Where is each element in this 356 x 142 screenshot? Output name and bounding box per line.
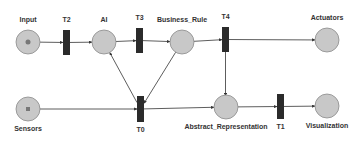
place-label-input: Input bbox=[19, 16, 37, 24]
place-ai bbox=[92, 30, 116, 54]
arc-t0-abstract-representation bbox=[144, 107, 214, 109]
place-label-sensors: Sensors bbox=[14, 125, 42, 132]
transition-t1 bbox=[277, 94, 284, 119]
place-actuators bbox=[315, 28, 339, 52]
place-circle bbox=[315, 28, 339, 52]
transition-label-t0: T0 bbox=[136, 126, 144, 133]
place-circle bbox=[170, 30, 194, 54]
place-label-abstract-representation: Abstract_Representation bbox=[184, 123, 267, 131]
petri-net-diagram: InputAIBusiness_RuleActuatorsSensorsAbst… bbox=[0, 0, 356, 142]
place-circle bbox=[214, 95, 238, 119]
place-label-ai: AI bbox=[101, 16, 108, 23]
place-sensors bbox=[16, 97, 40, 121]
transition-t3 bbox=[136, 28, 143, 53]
place-visualization bbox=[315, 94, 339, 118]
transition-t4 bbox=[222, 27, 229, 52]
place-abstract-representation bbox=[214, 95, 238, 119]
transition-t0 bbox=[137, 96, 144, 122]
place-business-rule bbox=[170, 30, 194, 54]
place-circle bbox=[92, 30, 116, 54]
transition-label-t1: T1 bbox=[276, 123, 284, 130]
place-label-visualization: Visualization bbox=[306, 122, 349, 129]
arc-business-rule-t0 bbox=[144, 52, 176, 103]
arc-t0-ai bbox=[110, 53, 137, 103]
transition-t2 bbox=[63, 30, 70, 55]
transition-label-t3: T3 bbox=[135, 14, 143, 21]
place-label-business-rule: Business_Rule bbox=[157, 16, 207, 23]
place-circle bbox=[315, 94, 339, 118]
arc-t3-business-rule bbox=[143, 41, 170, 42]
place-label-actuators: Actuators bbox=[311, 14, 344, 21]
transition-label-t4: T4 bbox=[221, 13, 229, 20]
token-icon bbox=[26, 107, 30, 111]
arc-ai-t3 bbox=[116, 41, 136, 42]
transition-label-t2: T2 bbox=[62, 16, 70, 23]
arc-business-rule-t4 bbox=[194, 40, 222, 42]
place-input bbox=[16, 30, 40, 54]
token-icon bbox=[26, 40, 31, 45]
